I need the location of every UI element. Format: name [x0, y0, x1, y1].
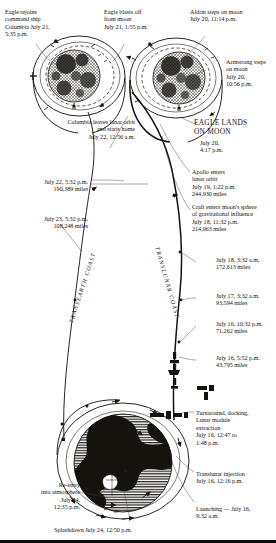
annotation-waypoint-jul16-552: July 16, 5:52 p.m. 43,795 miles [216, 354, 260, 369]
annotation-eagle-blasts-off: Eagle blasts off from moon July 21, 1:55… [104, 8, 148, 30]
annotation-armstrong-steps: Armstrong steps on moon July 20, 10:56 p… [226, 58, 266, 88]
stage-glyph-upper [197, 385, 214, 391]
annotation-waypoint-jul23: July 23, 5:32 p.m. 108,248 miles [2, 215, 88, 230]
annotation-splashdown: Splashdown July 24, 12:50 p.m. [54, 526, 132, 533]
docking-glyph [150, 411, 188, 419]
svg-text:Dr: Dr [113, 509, 119, 514]
annotation-reentry: Re-entry into atmosphere July 24, 12:35 … [0, 481, 80, 511]
annotation-craft-enters-sphere: Craft enters moon's sphere of gravitatio… [192, 203, 257, 233]
annotation-eagle-lands-time: July 20, 4:17 p.m. [200, 139, 223, 154]
annotation-eagle-lands: EAGLE LANDS ON MOON [194, 119, 247, 136]
annotation-waypoint-jul16-1032: July 16, 10:32 p.m. 71,262 miles [216, 320, 263, 335]
annotation-waypoint-jul18: July 18, 3:32 a.m. 172,613 miles [216, 256, 259, 271]
annotation-translunar-injection: Translunar injection July 16, 12:16 p.m. [196, 470, 245, 485]
stage-glyph-top [204, 392, 208, 400]
annotation-waypoint-jul17: July 17, 3:32 a.m. 93,594 miles [216, 292, 259, 307]
annotation-eagle-rejoins: Eagle rejoins command ship Columbia July… [5, 8, 50, 38]
annotation-aldrin-steps: Aldrin steps on moon July 20, 11:14 p.m. [190, 8, 242, 23]
apollo-trajectory-diagram: Dr [0, 0, 276, 543]
annotation-columbia-leaves: Columbia leaves lunar orbit and starts h… [5, 118, 135, 140]
annotation-launching: Launching — July 16, 9:32 a.m. [196, 505, 250, 520]
annotation-turnaround: Turnaround, docking, Lunar module extrac… [196, 409, 249, 446]
annotation-apollo-enters-orbit: Apollo enters lunar orbit July 19, 1:22 … [192, 168, 236, 198]
spacecraft-glyph-stack [168, 352, 180, 389]
annotation-waypoint-jul22: July 22, 5:32 p.m. 190,389 miles [2, 178, 88, 193]
